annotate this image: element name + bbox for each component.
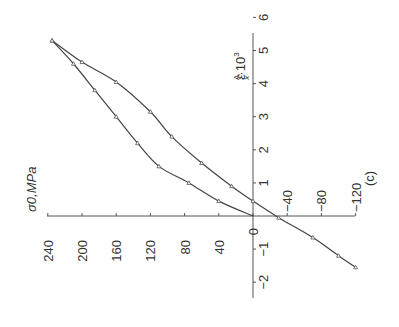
sigma-tick-label: 120 — [143, 240, 158, 262]
sigma-tick-label: −120 — [349, 183, 364, 212]
data-point-marker — [50, 39, 54, 43]
epsilon-exponent: 3 — [232, 52, 241, 57]
sigma-tick-label: 160 — [109, 240, 124, 262]
sigma-tick-label: 40 — [212, 240, 227, 254]
data-point-marker — [217, 199, 221, 203]
unloading-curve — [52, 41, 356, 268]
sigma-tick-label: −80 — [314, 190, 329, 212]
epsilon-tick-label: 6 — [256, 14, 271, 21]
epsilon-tick-label: 5 — [256, 47, 271, 54]
epsilon-tick-label: 1 — [256, 179, 271, 186]
epsilon-axis-label: εAx·103 — [232, 52, 251, 81]
sigma-tick-label: 0 — [246, 228, 261, 235]
sigma-tick-label: 240 — [41, 240, 56, 262]
loading-curve — [52, 41, 253, 216]
epsilon-tick-label: 4 — [256, 80, 271, 87]
epsilon-tick-label: −2 — [256, 275, 271, 290]
epsilon-tick-label: 3 — [256, 113, 271, 120]
sigma-tick-label: 80 — [178, 240, 193, 254]
sigma-axis-label-text: σ0,MPa — [24, 167, 39, 212]
sigma-axis-label: σ0,MPa — [24, 167, 39, 212]
sigma-ticks: 24020016012080400−40−80−120 — [41, 183, 364, 262]
sigma-tick-label: −40 — [280, 190, 295, 212]
stress-strain-chart: 24020016012080400−40−80−120 −2−1123456 σ… — [0, 0, 399, 327]
data-markers — [50, 39, 358, 269]
epsilon-ticks: −2−1123456 — [253, 14, 271, 290]
sigma-tick-label: 200 — [75, 240, 90, 262]
epsilon-tick-label: 2 — [256, 146, 271, 153]
panel-label: (c) — [362, 171, 377, 186]
epsilon-scale: ·10 — [233, 57, 248, 76]
epsilon-tick-label: −1 — [256, 242, 271, 257]
